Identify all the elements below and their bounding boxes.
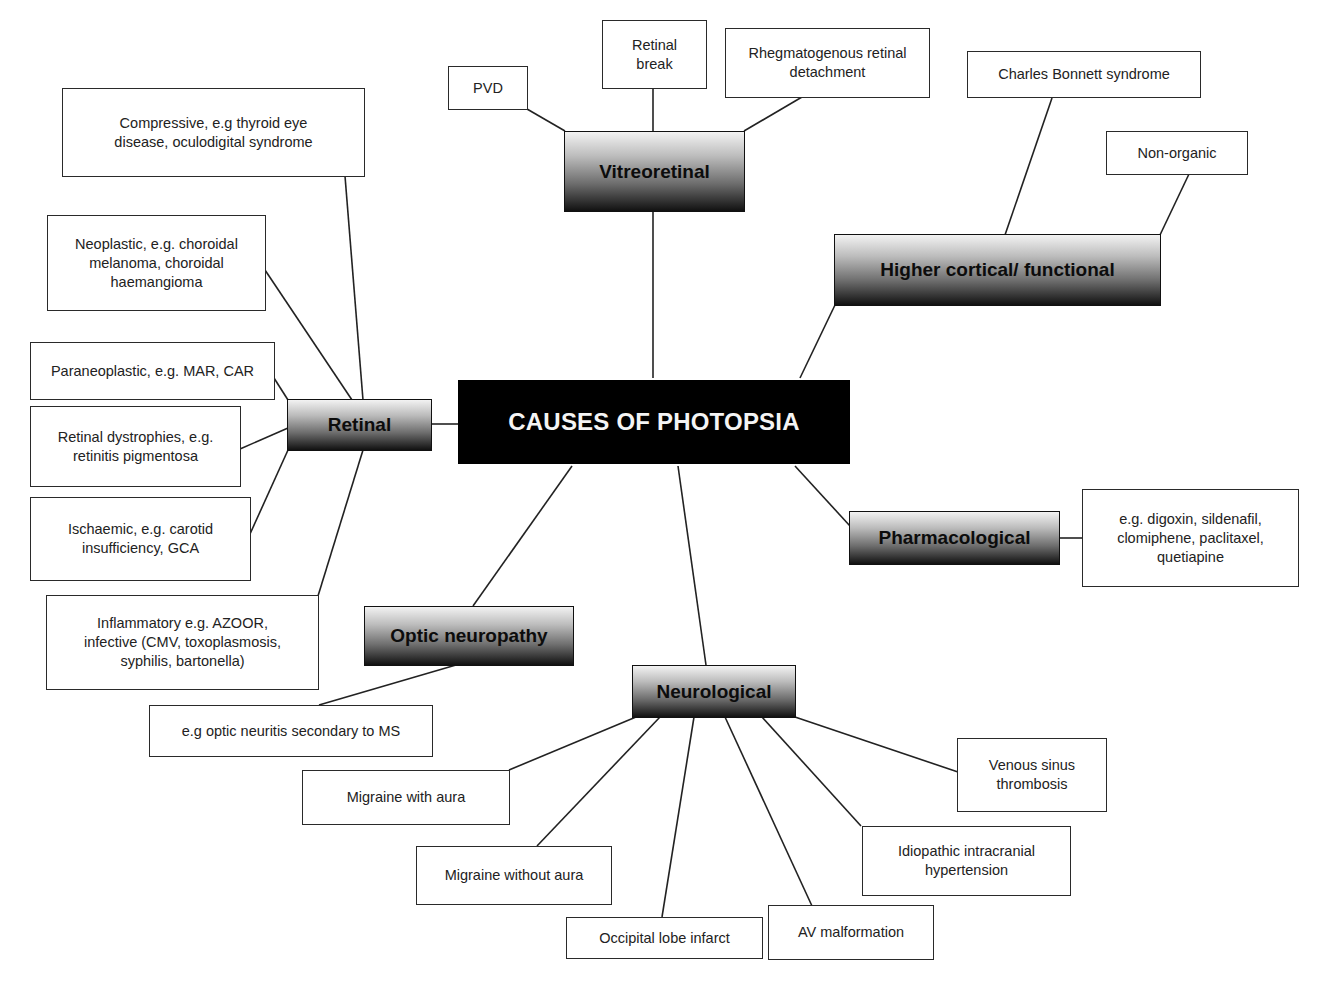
leaf-pharmacological-examples: e.g. digoxin, sildenafil, clomiphene, pa… [1082, 489, 1299, 587]
leaf-rhegmatogenous-rd: Rhegmatogenous retinal detachment [725, 28, 930, 98]
category-label: Neurological [656, 681, 771, 703]
leaf-text: Retinal break [620, 36, 690, 74]
leaf-text: Paraneoplastic, e.g. MAR, CAR [51, 362, 254, 381]
leaf-text: Retinal dystrophies, e.g. retinitis pigm… [51, 428, 221, 466]
leaf-text: Idiopathic intracranial hypertension [887, 842, 1047, 880]
leaf-text: Non-organic [1138, 144, 1217, 163]
category-neurological: Neurological [632, 665, 796, 718]
category-label: Vitreoretinal [599, 161, 710, 183]
category-pharmacological: Pharmacological [849, 511, 1060, 565]
leaf-av-malformation: AV malformation [768, 905, 934, 960]
leaf-text: e.g optic neuritis secondary to MS [182, 722, 400, 741]
root-title: CAUSES OF PHOTOPSIA [508, 408, 799, 436]
leaf-optic-neuritis: e.g optic neuritis secondary to MS [149, 705, 433, 757]
mind-map: CAUSES OF PHOTOPSIA Vitreoretinal PVD Re… [0, 0, 1319, 987]
root-node: CAUSES OF PHOTOPSIA [458, 380, 850, 464]
leaf-occipital-lobe-infarct: Occipital lobe infarct [566, 917, 763, 959]
leaf-text: Charles Bonnett syndrome [998, 65, 1170, 84]
leaf-ischaemic: Ischaemic, e.g. carotid insufficiency, G… [30, 497, 251, 581]
leaf-text: AV malformation [798, 923, 904, 942]
category-label: Retinal [328, 414, 391, 436]
category-retinal: Retinal [287, 399, 432, 451]
category-label: Higher cortical/ functional [880, 259, 1114, 281]
leaf-paraneoplastic: Paraneoplastic, e.g. MAR, CAR [30, 342, 275, 400]
leaf-charles-bonnett: Charles Bonnett syndrome [967, 51, 1201, 98]
leaf-text: Migraine with aura [347, 788, 465, 807]
leaf-text: e.g. digoxin, sildenafil, clomiphene, pa… [1103, 510, 1278, 567]
leaf-iih: Idiopathic intracranial hypertension [862, 826, 1071, 896]
category-optic-neuropathy: Optic neuropathy [364, 606, 574, 666]
leaf-venous-sinus-thrombosis: Venous sinus thrombosis [957, 738, 1107, 812]
leaf-text: Compressive, e.g thyroid eye disease, oc… [101, 114, 326, 152]
leaf-neoplastic: Neoplastic, e.g. choroidal melanoma, cho… [47, 215, 266, 311]
category-label: Optic neuropathy [390, 625, 547, 647]
leaf-text: Migraine without aura [445, 866, 584, 885]
category-higher-cortical: Higher cortical/ functional [834, 234, 1161, 306]
leaf-text: Rhegmatogenous retinal detachment [748, 44, 908, 82]
leaf-retinal-break: Retinal break [602, 20, 707, 89]
leaf-migraine-with-aura: Migraine with aura [302, 770, 510, 825]
leaf-retinal-dystrophies: Retinal dystrophies, e.g. retinitis pigm… [30, 406, 241, 487]
leaf-inflammatory: Inflammatory e.g. AZOOR, infective (CMV,… [46, 595, 319, 690]
leaf-text: PVD [473, 79, 503, 98]
leaf-migraine-without-aura: Migraine without aura [416, 846, 612, 905]
leaf-text: Inflammatory e.g. AZOOR, infective (CMV,… [75, 614, 290, 671]
category-label: Pharmacological [878, 527, 1030, 549]
leaf-text: Occipital lobe infarct [599, 929, 730, 948]
leaf-compressive: Compressive, e.g thyroid eye disease, oc… [62, 88, 365, 177]
leaf-non-organic: Non-organic [1106, 131, 1248, 175]
leaf-text: Ischaemic, e.g. carotid insufficiency, G… [61, 520, 221, 558]
leaf-pvd: PVD [448, 66, 528, 110]
category-vitreoretinal: Vitreoretinal [564, 131, 745, 212]
leaf-text: Venous sinus thrombosis [977, 756, 1087, 794]
leaf-text: Neoplastic, e.g. choroidal melanoma, cho… [67, 235, 247, 292]
